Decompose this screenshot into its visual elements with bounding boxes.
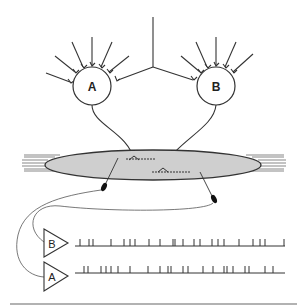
amplifier-a-label: A bbox=[48, 271, 56, 283]
lead-left bbox=[17, 190, 101, 277]
amplifier-b-label: B bbox=[48, 238, 55, 250]
neuromuscular-diagram: A B B A bbox=[0, 0, 305, 307]
spike-train-b bbox=[75, 239, 285, 246]
neuron-b-label: B bbox=[212, 80, 221, 94]
neuron-a: A bbox=[73, 67, 111, 105]
muscle-fiber bbox=[45, 150, 261, 180]
amplifier-a: A bbox=[44, 262, 68, 291]
spike-train-a bbox=[75, 266, 285, 273]
lead-right bbox=[33, 203, 213, 242]
neuron-a-label: A bbox=[88, 80, 97, 94]
upper-input-tree bbox=[118, 17, 193, 80]
amplifier-b: B bbox=[44, 229, 68, 257]
neuron-b: B bbox=[197, 67, 235, 105]
